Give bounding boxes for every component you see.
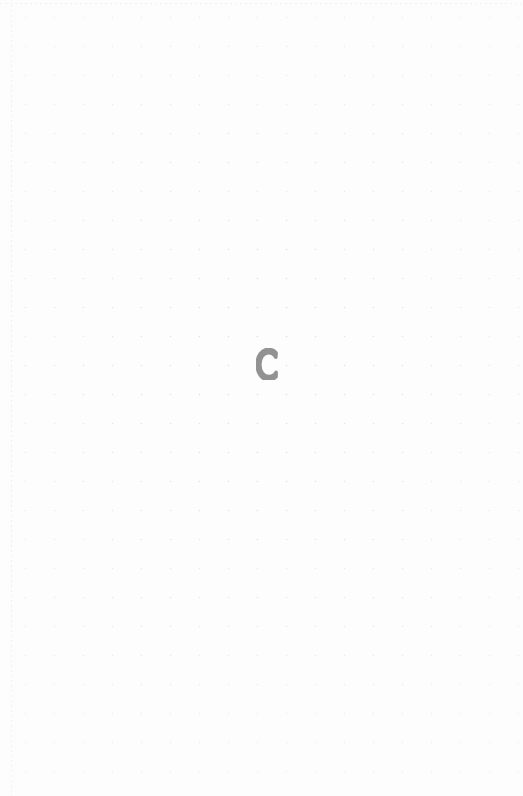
graph-grid-intersection-dots (0, 0, 523, 796)
scanned-page (0, 0, 523, 796)
